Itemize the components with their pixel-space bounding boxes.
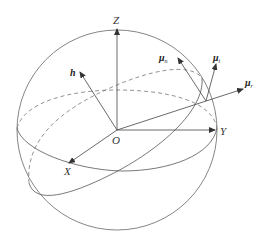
h-vector-label: h — [70, 67, 76, 78]
h-vector — [80, 72, 117, 130]
mu-n-label: μn — [158, 52, 168, 64]
x-axis — [69, 130, 117, 163]
mu-r-label: μr — [244, 77, 254, 89]
y-axis-label: Y — [220, 125, 228, 137]
tilted-circle-back — [29, 69, 202, 183]
mu-t-label: μt — [212, 52, 221, 64]
sphere-diagram: Z Y X O h μn μt μr — [0, 0, 268, 245]
mu-r-vector — [117, 89, 243, 130]
x-axis-label: X — [63, 165, 72, 177]
origin-label: O — [112, 134, 120, 146]
z-axis-label: Z — [113, 14, 120, 26]
